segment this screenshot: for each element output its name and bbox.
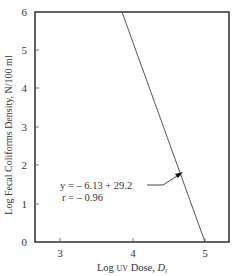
x-axis-label: Log UV Dose, Dl bbox=[97, 262, 167, 275]
y-tick-label: 5 bbox=[22, 44, 28, 56]
y-tick-label: 2 bbox=[22, 159, 28, 171]
correlation-annotation: r = – 0.96 bbox=[62, 192, 103, 203]
y-tick-label: 3 bbox=[22, 121, 28, 133]
x-tick-label: 4 bbox=[130, 247, 136, 259]
x-tick-label: 5 bbox=[202, 247, 208, 259]
y-axis-label: Log Fecal Coliforms Density, N/100 ml bbox=[3, 55, 14, 215]
plot-frame bbox=[35, 12, 229, 242]
annotation-leader bbox=[147, 174, 180, 185]
chart: 6 5 4 3 2 1 0 3 4 5 Log UV Dose, Dl Log … bbox=[0, 0, 236, 276]
regression-line bbox=[122, 12, 205, 242]
y-tick-label: 6 bbox=[22, 6, 28, 18]
x-tick-label: 3 bbox=[57, 247, 63, 259]
equation-annotation: y = – 6.13 + 29.2 bbox=[60, 180, 132, 191]
y-tick-label: 0 bbox=[22, 236, 28, 248]
y-tick-label: 1 bbox=[22, 198, 28, 210]
y-tick-label: 4 bbox=[22, 82, 28, 94]
